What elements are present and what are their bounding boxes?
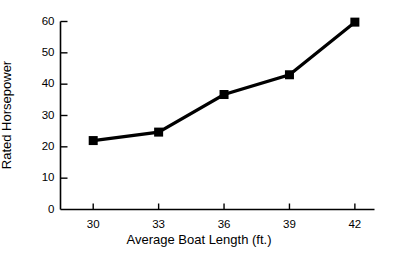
data-point-marker: [154, 128, 163, 137]
chart-tick-marks: [61, 22, 355, 210]
y-axis-tick-label: 50: [42, 47, 55, 59]
x-axis-tick-label: 42: [348, 219, 361, 231]
y-axis-tick-label: 20: [42, 141, 55, 153]
chart-axes: [61, 22, 375, 210]
data-point-marker: [350, 18, 359, 27]
x-axis-tick-label: 30: [87, 219, 100, 231]
chart-plot-area: [0, 0, 398, 255]
y-axis-tick-label: 30: [42, 110, 55, 122]
y-axis-tick-label: 40: [42, 78, 55, 90]
x-axis-title: Average Boat Length (ft.): [0, 232, 398, 247]
y-axis-title: Rated Horsepower: [0, 61, 14, 169]
data-point-marker: [220, 90, 229, 99]
data-point-marker: [285, 70, 294, 79]
y-axis-tick-label: 10: [42, 172, 55, 184]
x-axis-tick-label: 36: [218, 219, 231, 231]
y-axis-tick-label: 60: [42, 16, 55, 28]
data-point-marker: [89, 136, 98, 145]
data-point-markers: [89, 18, 360, 145]
x-axis-tick-label: 33: [152, 219, 165, 231]
series-line: [93, 22, 355, 140]
data-line-series: [93, 22, 355, 140]
chart-container: 0102030405060 3033363942 Average Boat Le…: [0, 0, 398, 255]
x-axis-tick-label: 39: [283, 219, 296, 231]
y-axis-tick-label: 0: [48, 204, 54, 216]
